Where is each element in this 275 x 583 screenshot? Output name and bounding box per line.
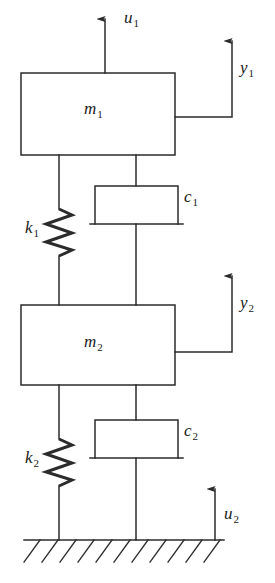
spring-2-coil: [46, 439, 72, 486]
mass-spring-damper-diagram: u1 m1 y1 k1 c1 m2 y2 k2 c2 u2: [0, 0, 275, 583]
mass-2-label: m2: [84, 333, 102, 350]
spring-2-label: k2: [25, 449, 38, 466]
spring-1-label: k1: [25, 219, 38, 236]
output-2-label: y2: [240, 294, 253, 311]
damper-2-cylinder: [95, 420, 178, 458]
output-2-arrow: [175, 276, 232, 352]
output-1-arrow: [175, 41, 232, 117]
input-2-label: u2: [224, 505, 238, 522]
damper-2-label: c2: [184, 422, 197, 439]
damper-1-cylinder: [95, 186, 178, 224]
input-1-label: u1: [124, 9, 138, 26]
diagram-canvas: [0, 0, 275, 583]
mass-1-label: m1: [84, 100, 102, 117]
output-1-label: y1: [240, 59, 253, 76]
damper-1-label: c1: [184, 188, 197, 205]
spring-1-coil: [46, 209, 72, 256]
ground-hatching: [24, 540, 220, 562]
